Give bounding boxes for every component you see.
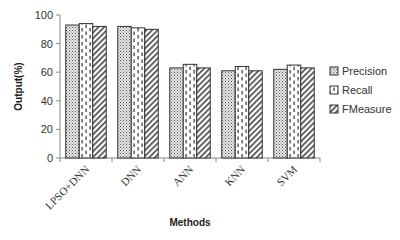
x-tick-label: LPSO+DNN [43, 163, 92, 212]
bar-precision [118, 26, 132, 158]
y-tick-label: 100 [35, 9, 53, 21]
y-tick-label: 20 [41, 123, 53, 135]
bar-recall [183, 64, 197, 158]
legend-label-recall: Recall [342, 84, 373, 96]
y-tick-label: 0 [47, 152, 53, 164]
legend-swatch-precision [330, 67, 338, 75]
legend-label-precision: Precision [342, 65, 387, 77]
bar-fmeasure [93, 26, 107, 158]
x-tick-label: KNN [222, 163, 247, 188]
y-tick-label: 80 [41, 38, 53, 50]
x-tick-label: ANN [170, 163, 195, 188]
x-axis-title: Methods [169, 217, 211, 228]
bar-precision [274, 69, 288, 158]
bar-precision [222, 71, 236, 158]
bar-recall [79, 24, 93, 158]
y-tick-label: 40 [41, 95, 53, 107]
bar-fmeasure [145, 29, 159, 158]
legend-swatch-recall [330, 86, 338, 94]
bar-chart: 020406080100 LPSO+DNNDNNANNKNNSVMOutput(… [0, 0, 400, 240]
x-tick-label: SVM [274, 163, 299, 188]
bar-fmeasure [249, 71, 263, 158]
legend-label-fmeasure: FMeasure [342, 103, 392, 115]
bar-fmeasure [301, 68, 315, 158]
bar-precision [170, 68, 184, 158]
bar-precision [66, 25, 80, 158]
y-axis-title: Output(%) [13, 62, 24, 110]
bar-recall [131, 28, 145, 158]
legend: PrecisionRecallFMeasure [330, 65, 392, 115]
bar-recall [287, 65, 301, 158]
bar-recall [235, 66, 249, 158]
bar-fmeasure [197, 68, 211, 158]
y-tick-label: 60 [41, 66, 53, 78]
x-tick-label: DNN [118, 163, 143, 188]
bars [66, 24, 315, 158]
legend-swatch-fmeasure [330, 105, 338, 113]
